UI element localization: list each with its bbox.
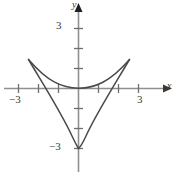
- deltoid-right-arc: [79, 60, 130, 149]
- y-tick-label--3: −3: [49, 141, 61, 152]
- plot-canvas: [0, 0, 179, 181]
- y-axis-label: y: [72, 0, 76, 10]
- y-tick-label-3: 3: [56, 20, 62, 31]
- deltoid-left-arc: [29, 60, 79, 149]
- graph-figure: −3 3 3 −3 x y: [0, 0, 179, 181]
- x-tick-label-3: 3: [137, 94, 143, 105]
- x-tick-label--3: −3: [9, 94, 21, 105]
- x-axis-label: x: [167, 81, 171, 91]
